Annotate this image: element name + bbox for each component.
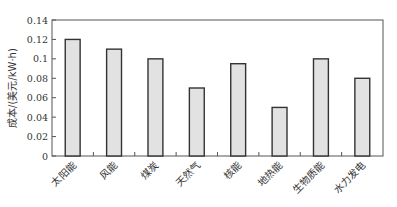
x-category-label: 地热能 bbox=[255, 159, 285, 189]
y-axis-title: 成本/(美元/kW·h) bbox=[6, 48, 18, 128]
bar-chart: 00.020.040.060.080.10.120.14 太阳能风能煤炭天然气核… bbox=[0, 0, 397, 207]
bar-8 bbox=[355, 78, 370, 156]
bar-2 bbox=[107, 49, 122, 156]
x-category-label: 太阳能 bbox=[48, 159, 78, 189]
x-category-label: 水力发电 bbox=[331, 159, 368, 196]
plot-frame bbox=[52, 20, 383, 156]
y-tick-label: 0.14 bbox=[27, 15, 48, 26]
x-category-label: 生物质能 bbox=[290, 159, 327, 196]
bar-6 bbox=[272, 107, 287, 156]
bar-4 bbox=[189, 88, 204, 156]
bar-5 bbox=[231, 64, 246, 156]
y-tick-label: 0.08 bbox=[27, 73, 48, 84]
y-tick-label: 0.02 bbox=[27, 131, 48, 142]
y-tick-label: 0.06 bbox=[27, 92, 48, 103]
x-category-label: 核能 bbox=[221, 159, 244, 182]
y-tick-label: 0 bbox=[42, 151, 48, 162]
x-category-label: 风能 bbox=[97, 159, 120, 182]
bar-7 bbox=[313, 59, 328, 156]
x-category-label: 煤炭 bbox=[138, 159, 161, 182]
bar-1 bbox=[65, 39, 80, 156]
bar-3 bbox=[148, 59, 163, 156]
y-tick-label: 0.12 bbox=[27, 34, 48, 45]
y-tick-label: 0.1 bbox=[33, 53, 48, 64]
x-category-label: 天然气 bbox=[173, 159, 203, 189]
y-tick-label: 0.04 bbox=[27, 112, 48, 123]
